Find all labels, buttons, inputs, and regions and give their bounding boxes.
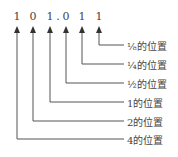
label-one-position: 1的位置 [127, 95, 163, 110]
label-four-position: 4的位置 [127, 132, 163, 147]
label-half-position: ½的位置 [127, 76, 167, 91]
label-two-position: 2的位置 [127, 114, 163, 129]
label-quarter-position: ¼的位置 [127, 57, 167, 72]
label-eighth-position: ⅛的位置 [127, 38, 167, 53]
